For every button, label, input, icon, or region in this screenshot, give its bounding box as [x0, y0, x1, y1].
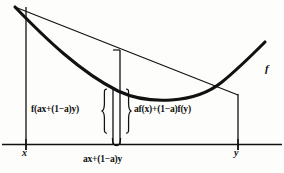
convex-curve — [15, 7, 265, 100]
label-interior-point: ax+(1−a)y — [83, 155, 122, 165]
label-function-value: f(ax+(1−a)y) — [31, 105, 79, 115]
axis-label-y: y — [234, 147, 238, 158]
chord-line — [15, 7, 238, 95]
axis-label-x: x — [22, 147, 27, 158]
left-brace-icon — [102, 89, 107, 133]
label-chord-value: af(x)+(1−a)f(y) — [134, 105, 191, 115]
figure-canvas — [0, 0, 284, 173]
convexity-figure: f x y f(ax+(1−a)y) af(x)+(1−a)f(y) ax+(1… — [0, 0, 284, 173]
curve-label-f: f — [265, 62, 268, 74]
